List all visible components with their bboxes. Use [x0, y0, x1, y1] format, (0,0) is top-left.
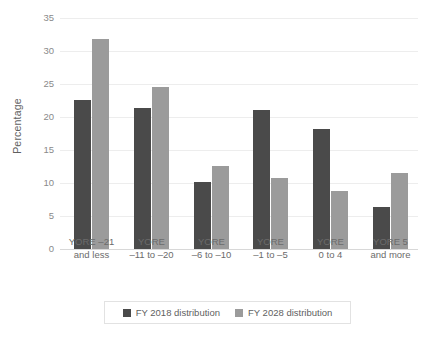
bar-group [194, 18, 229, 249]
gridline [60, 216, 418, 217]
bar-group [253, 18, 288, 249]
legend-label: FY 2018 distribution [136, 307, 220, 318]
bar [92, 39, 109, 249]
y-tick-label: 30 [43, 46, 54, 56]
gridline [60, 183, 418, 184]
bar [152, 87, 169, 249]
bar-group [74, 18, 109, 249]
bar [134, 108, 151, 249]
y-tick-label: 35 [43, 13, 54, 23]
bar-group [134, 18, 169, 249]
chart-legend: FY 2018 distributionFY 2028 distribution [104, 301, 351, 324]
bar-chart: Percentage 05101520253035 YORE –21and le… [0, 0, 431, 353]
bar-group [313, 18, 348, 249]
bar [74, 100, 91, 249]
y-tick-label: 10 [43, 178, 54, 188]
y-axis-title: Percentage [11, 76, 23, 176]
y-tick-label: 20 [43, 112, 54, 122]
legend-label: FY 2028 distribution [248, 307, 332, 318]
legend-item: FY 2028 distribution [235, 307, 332, 318]
y-tick-label: 5 [49, 211, 54, 221]
plot-area: 05101520253035 [60, 18, 418, 249]
bar [313, 129, 330, 249]
legend-item: FY 2018 distribution [123, 307, 220, 318]
gridline [60, 18, 418, 19]
gridline [60, 51, 418, 52]
y-tick-label: 15 [43, 145, 54, 155]
bar-group [373, 18, 408, 249]
legend-swatch-icon [235, 309, 243, 317]
legend-swatch-icon [123, 309, 131, 317]
y-tick-label: 25 [43, 79, 54, 89]
bar [253, 110, 270, 249]
gridline [60, 117, 418, 118]
gridline [60, 84, 418, 85]
x-tick-label: YORE 5and more [351, 236, 430, 261]
gridline [60, 150, 418, 151]
